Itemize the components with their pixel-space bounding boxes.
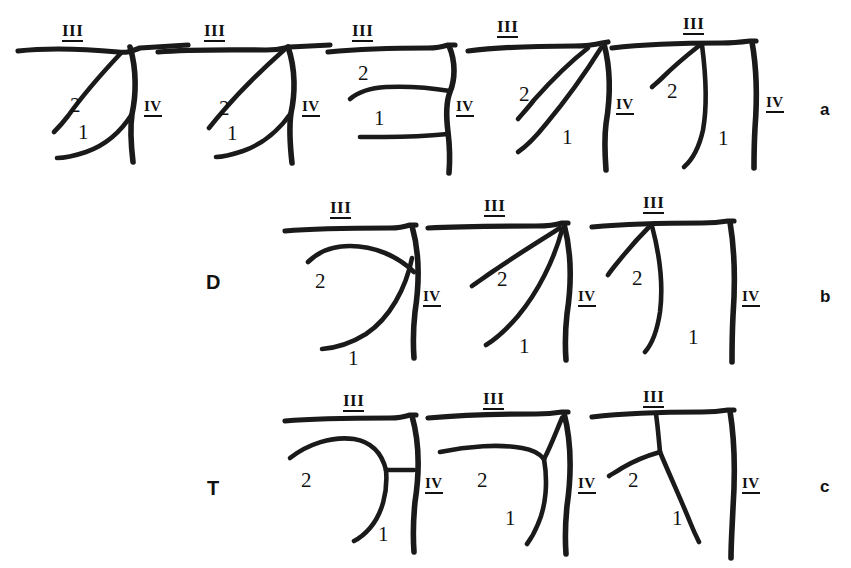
panel-c1-label-III: III xyxy=(343,392,364,412)
panel-b2-label-1: 1 xyxy=(519,336,530,357)
panel-b1-label-IV: IV xyxy=(423,287,441,307)
panel-b1-label-2: 2 xyxy=(315,271,326,292)
roman-numeral-three: III xyxy=(683,15,704,35)
roman-numeral-three: III xyxy=(643,388,664,408)
panel-b3-label-1: 1 xyxy=(688,327,699,348)
panel-a3-label-IV: IV xyxy=(456,97,474,117)
row-letter-a: a xyxy=(820,101,829,118)
roman-numeral-four: IV xyxy=(766,95,784,113)
panel-a3-label-III: III xyxy=(352,22,373,42)
panel-a3-label-1: 1 xyxy=(374,108,385,129)
roman-numeral-four: IV xyxy=(456,99,474,117)
roman-numeral-four: IV xyxy=(578,476,596,494)
panel-a5-label-2: 2 xyxy=(667,81,678,102)
roman-numeral-three: III xyxy=(484,197,505,217)
panel-b2-strokes xyxy=(428,223,570,360)
panel-a4-label-IV: IV xyxy=(616,95,634,115)
panel-c2-label-III: III xyxy=(483,390,504,410)
roman-numeral-three: III xyxy=(497,18,518,38)
roman-numeral-three: III xyxy=(483,390,504,410)
roman-numeral-three: III xyxy=(204,22,225,42)
panel-a5-label-IV: IV xyxy=(766,93,784,113)
panel-c3-strokes xyxy=(592,410,734,558)
figure-root: III 2 1 IV III 2 1 IV III 2 1 IV III 2 1… xyxy=(0,0,851,568)
panel-a1-strokes xyxy=(18,45,188,162)
panel-c1-label-1: 1 xyxy=(378,524,389,545)
panel-a4-label-2: 2 xyxy=(519,84,530,105)
roman-numeral-four: IV xyxy=(144,99,162,117)
panel-a4-label-III: III xyxy=(497,18,518,38)
panel-a5-label-III: III xyxy=(683,15,704,35)
roman-numeral-four: IV xyxy=(302,99,320,117)
panel-b2-label-2: 2 xyxy=(497,269,508,290)
panel-a1-label-1: 1 xyxy=(78,122,89,143)
roman-numeral-four: IV xyxy=(425,476,443,494)
panel-a1-label-2: 2 xyxy=(70,95,81,116)
roman-numeral-four: IV xyxy=(742,476,760,494)
panel-c1-label-IV: IV xyxy=(425,474,443,494)
panel-a4-label-1: 1 xyxy=(562,127,573,148)
panel-b1-label-III: III xyxy=(330,199,351,219)
panel-c3-label-2: 2 xyxy=(628,470,639,491)
panel-a1-label-III: III xyxy=(62,22,83,42)
panel-c2-label-2: 2 xyxy=(477,470,488,491)
panel-b1-label-1: 1 xyxy=(348,348,359,369)
panel-c3-label-IV: IV xyxy=(742,474,760,494)
roman-numeral-three: III xyxy=(643,194,664,214)
panel-a3-label-2: 2 xyxy=(358,63,369,84)
roman-numeral-three: III xyxy=(343,392,364,412)
panel-a2-label-III: III xyxy=(204,22,225,42)
panel-a4-strokes xyxy=(468,42,609,170)
roman-numeral-four: IV xyxy=(742,289,760,307)
panel-a2-label-2: 2 xyxy=(219,98,230,119)
roman-numeral-three: III xyxy=(330,199,351,219)
row-group-label-D: D xyxy=(206,272,220,292)
roman-numeral-four: IV xyxy=(578,289,596,307)
panel-c3-label-III: III xyxy=(643,388,664,408)
panel-b1-strokes xyxy=(285,225,418,358)
roman-numeral-four: IV xyxy=(616,97,634,115)
panel-a3-strokes xyxy=(328,45,455,173)
row-group-label-T: T xyxy=(207,478,219,498)
roman-numeral-four: IV xyxy=(423,289,441,307)
panel-c2-label-1: 1 xyxy=(505,508,516,529)
panel-c2-label-IV: IV xyxy=(578,474,596,494)
panel-b2-label-III: III xyxy=(484,197,505,217)
panel-b3-label-IV: IV xyxy=(742,287,760,307)
panel-a1-label-IV: IV xyxy=(144,97,162,117)
roman-numeral-three: III xyxy=(352,22,373,42)
panel-a2-label-IV: IV xyxy=(302,97,320,117)
panel-c2-strokes xyxy=(428,412,570,554)
row-letter-c: c xyxy=(820,478,829,495)
panel-a5-label-1: 1 xyxy=(718,128,729,149)
panel-a2-label-1: 1 xyxy=(227,123,238,144)
panel-b2-label-IV: IV xyxy=(578,287,596,307)
panel-c1-label-2: 2 xyxy=(301,470,312,491)
row-letter-b: b xyxy=(820,288,830,305)
panel-b3-strokes xyxy=(592,221,734,362)
roman-numeral-three: III xyxy=(62,22,83,42)
panel-c3-label-1: 1 xyxy=(672,508,683,529)
panel-b3-label-2: 2 xyxy=(632,268,643,289)
panel-b3-label-III: III xyxy=(643,194,664,214)
